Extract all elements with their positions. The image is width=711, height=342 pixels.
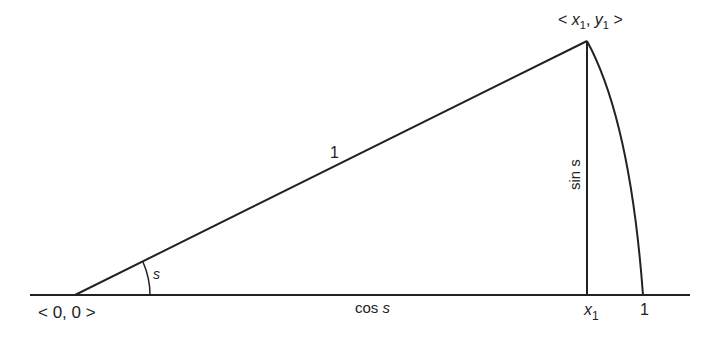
- hypotenuse-label: 1: [330, 144, 339, 161]
- x1-foot-label: x1: [583, 301, 599, 323]
- sine-label: sin s: [566, 159, 583, 190]
- unit-circle-diagram: < 0, 0 > < x1, y1 > 1 s sin s cos s x1 1: [0, 0, 711, 342]
- angle-label: s: [153, 266, 160, 282]
- origin-label: < 0, 0 >: [38, 303, 96, 322]
- angle-arc: [143, 262, 150, 295]
- point-label: < x1, y1 >: [558, 11, 623, 31]
- cosine-label: cos s: [355, 299, 391, 316]
- hypotenuse-line: [75, 41, 587, 295]
- unit-arc: [587, 41, 643, 295]
- arc-end-label: 1: [640, 301, 649, 318]
